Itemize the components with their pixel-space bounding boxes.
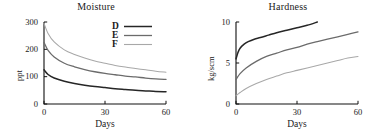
legend-item-f: F: [112, 40, 153, 49]
legend: DEF: [112, 22, 153, 49]
legend-line-swatch: [123, 31, 153, 40]
x-tick-label: 0: [30, 107, 58, 117]
y-tick-label: 10: [192, 17, 230, 27]
y-tick-label: 200: [0, 44, 38, 54]
x-tick-label: 30: [283, 107, 311, 117]
legend-line-swatch: [123, 40, 153, 49]
x-axis-label-hardness: Days: [226, 119, 368, 129]
legend-key-label: F: [112, 40, 123, 49]
y-tick-label: 5: [192, 58, 230, 68]
x-tick-label: 60: [344, 107, 372, 117]
legend-item-d: D: [112, 22, 153, 31]
x-tick-label: 60: [152, 107, 180, 117]
legend-item-e: E: [112, 31, 153, 40]
chart-panel-hardness: Hardness kg/scm Days 0510 03060: [192, 0, 384, 140]
series-lines-hardness: [236, 22, 358, 96]
x-tick-label: 0: [222, 107, 250, 117]
y-tick-label: 100: [0, 71, 38, 81]
x-axis-label-moisture: Days: [34, 119, 176, 129]
y-tick-label: 300: [0, 17, 38, 27]
chart-panel-moisture: Moisture ppt Days 0100200300 03060 DEF: [0, 0, 192, 140]
x-tick-label: 30: [91, 107, 119, 117]
legend-line-swatch: [123, 22, 153, 31]
figure-container: Moisture ppt Days 0100200300 03060 DEF H…: [0, 0, 384, 140]
